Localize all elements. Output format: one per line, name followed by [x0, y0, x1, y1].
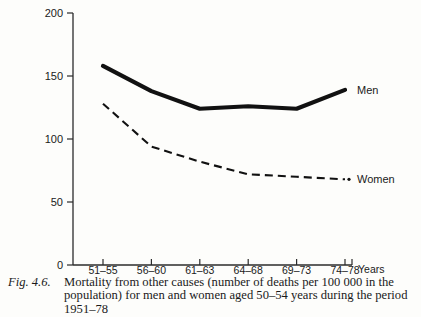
- chart-plot-area: 050100150200 51–5556–6061–6364–6869–7374…: [0, 0, 421, 275]
- figure-number-label: Fig. 4.6.: [8, 276, 64, 289]
- y-tick-label: 0: [57, 259, 63, 271]
- x-tick-label: 74–78: [330, 264, 359, 275]
- figure-container: 050100150200 51–5556–6061–6364–6869–7374…: [0, 0, 421, 317]
- x-tick-label: 61–63: [185, 264, 214, 275]
- figure-caption: Fig. 4.6.Mortality from other causes (nu…: [0, 276, 421, 316]
- series-label-men: Men: [357, 84, 378, 96]
- x-axis: 51–5556–6061–6364–6869–7374–78 Years: [73, 259, 384, 275]
- figure-caption-row: Fig. 4.6.Mortality from other causes (nu…: [0, 276, 421, 316]
- line-chart-svg: 050100150200 51–5556–6061–6364–6869–7374…: [0, 0, 421, 275]
- y-axis-tick-labels: 050100150200: [45, 7, 63, 271]
- x-axis-unit-label: Years: [358, 263, 384, 275]
- x-tick-label: 51–55: [88, 264, 117, 275]
- series-women-end-marker: [347, 178, 350, 181]
- figure-caption-text: Mortality from other causes (number of d…: [64, 276, 404, 316]
- x-tick-label: 69–73: [282, 264, 311, 275]
- data-series-group: [103, 66, 351, 181]
- y-tick-label: 50: [51, 196, 63, 208]
- y-axis: 050100150200: [45, 7, 73, 271]
- y-tick-label: 200: [45, 7, 63, 19]
- y-tick-label: 100: [45, 133, 63, 145]
- x-tick-label: 56–60: [137, 264, 166, 275]
- figure-caption-line: Mortality from other causes (number of d…: [64, 276, 404, 289]
- x-tick-label: 64–68: [234, 264, 263, 275]
- y-axis-tick-marks: [67, 13, 73, 265]
- figure-caption-line: population) for men and women aged 50–54…: [64, 289, 404, 302]
- series-label-women: Women: [357, 173, 395, 185]
- series-line-men: [103, 66, 345, 109]
- figure-caption-line: 1951–78: [64, 303, 404, 316]
- series-line-women: [103, 104, 345, 180]
- y-tick-label: 150: [45, 70, 63, 82]
- series-annotations: Men Women: [357, 84, 395, 185]
